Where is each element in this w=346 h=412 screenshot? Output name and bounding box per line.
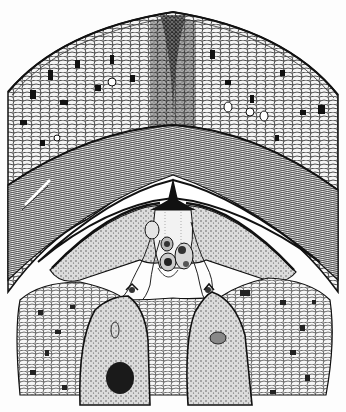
prothallus-tissue: [17, 278, 332, 395]
ovule-section-drawing: [0, 0, 346, 412]
pollen-grain: [145, 221, 159, 239]
botanical-illustration: [0, 0, 346, 412]
